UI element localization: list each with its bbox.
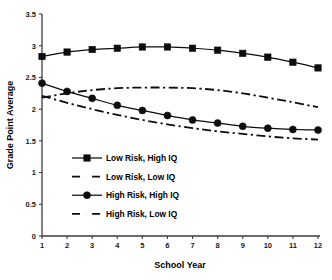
y-tick-label: 2 bbox=[32, 105, 36, 114]
data-point-marker bbox=[164, 44, 170, 50]
data-point-marker bbox=[290, 59, 296, 65]
x-tick-label: 2 bbox=[65, 241, 69, 250]
legend-label: High Risk, Low IQ bbox=[106, 209, 178, 219]
x-tick-label: 10 bbox=[264, 241, 272, 250]
legend-marker-square bbox=[84, 155, 90, 161]
x-axis-title: School Year bbox=[154, 260, 206, 270]
x-tick-label: 5 bbox=[140, 241, 144, 250]
x-tick-label: 6 bbox=[165, 241, 169, 250]
x-tick-label: 9 bbox=[241, 241, 245, 250]
data-point-marker bbox=[315, 65, 321, 71]
plot-background bbox=[0, 0, 332, 280]
data-point-marker bbox=[89, 95, 96, 102]
data-point-marker bbox=[189, 116, 196, 123]
data-point-marker bbox=[264, 125, 271, 132]
y-tick-label: 0 bbox=[32, 232, 36, 241]
data-point-marker bbox=[265, 54, 271, 60]
y-tick-label: 1 bbox=[32, 168, 36, 177]
data-point-marker bbox=[189, 45, 195, 51]
data-point-marker bbox=[239, 123, 246, 130]
data-point-marker bbox=[114, 45, 120, 51]
legend-label: Low Risk, Low IQ bbox=[106, 172, 176, 182]
y-tick-label: 2.5 bbox=[26, 73, 36, 82]
legend-label: Low Risk, High IQ bbox=[106, 153, 178, 163]
x-tick-label: 12 bbox=[314, 241, 322, 250]
y-tick-label: 3 bbox=[32, 42, 36, 51]
x-tick-label: 8 bbox=[216, 241, 220, 250]
data-point-marker bbox=[214, 47, 220, 53]
data-point-marker bbox=[214, 120, 221, 127]
legend-marker-circle bbox=[84, 192, 91, 199]
data-point-marker bbox=[39, 53, 45, 59]
y-tick-label: 0.5 bbox=[26, 200, 36, 209]
y-tick-label: 1.5 bbox=[26, 137, 36, 146]
x-tick-label: 3 bbox=[90, 241, 94, 250]
data-point-marker bbox=[315, 127, 322, 134]
x-tick-label: 1 bbox=[40, 241, 44, 250]
data-point-marker bbox=[139, 44, 145, 50]
data-point-marker bbox=[240, 50, 246, 56]
data-point-marker bbox=[64, 88, 71, 95]
y-axis-title: Grade Point Average bbox=[5, 81, 15, 169]
legend-label: High Risk, High IQ bbox=[106, 190, 180, 200]
y-tick-label: 3.5 bbox=[26, 10, 36, 19]
data-point-marker bbox=[114, 102, 121, 109]
data-point-marker bbox=[164, 112, 171, 119]
x-tick-label: 11 bbox=[289, 241, 297, 250]
data-point-marker bbox=[139, 107, 146, 114]
data-point-marker bbox=[89, 46, 95, 52]
line-chart: 00.511.522.533.5 123456789101112 Low Ris… bbox=[0, 0, 332, 280]
chart-figure: 00.511.522.533.5 123456789101112 Low Ris… bbox=[0, 0, 332, 280]
x-tick-label: 7 bbox=[190, 241, 194, 250]
data-point-marker bbox=[64, 49, 70, 55]
legend-entry: High Risk, High IQ bbox=[72, 190, 180, 200]
data-point-marker bbox=[289, 126, 296, 133]
data-point-marker bbox=[39, 80, 46, 87]
